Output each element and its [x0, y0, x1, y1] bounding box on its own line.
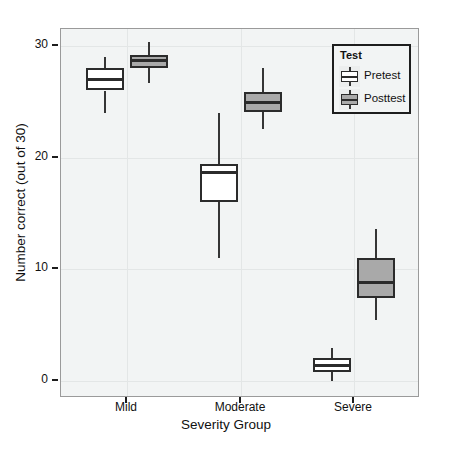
whisker-lower	[375, 298, 377, 319]
box-iqr	[357, 258, 395, 298]
legend-title: Test	[340, 49, 362, 61]
y-axis-tick	[52, 267, 58, 269]
y-axis-tick-label: 20	[20, 149, 48, 163]
legend-whisker-bottom	[349, 104, 351, 109]
chart-figure: Number correct (out of 30) 0102030 Test …	[0, 0, 452, 453]
median-line	[357, 281, 395, 284]
legend-median-pretest	[341, 76, 358, 78]
y-axis-tick-label: 10	[20, 260, 48, 274]
legend-median-posttest	[341, 99, 358, 101]
y-axis-tick	[52, 44, 58, 46]
x-axis-tick-label-moderate: Moderate	[215, 400, 266, 414]
legend-label-posttest: Posttest	[364, 92, 406, 104]
x-axis-label: Severity Group	[0, 417, 452, 432]
y-axis-label: Number correct (out of 30)	[13, 73, 28, 333]
legend-key-posttest-icon	[339, 89, 360, 110]
legend-item-posttest[interactable]: Posttest	[339, 89, 411, 110]
y-axis-tick	[52, 156, 58, 158]
y-axis-tick-label: 0	[20, 372, 48, 386]
legend: Test Pretest Posttest	[332, 44, 411, 114]
legend-label-pretest: Pretest	[364, 69, 400, 81]
legend-key-pretest-icon	[339, 66, 360, 87]
x-axis-tick-label-severe: Severe	[334, 400, 372, 414]
legend-whisker-bottom	[349, 81, 351, 86]
y-axis-tick	[52, 379, 58, 381]
plot-panel: Test Pretest Posttest	[60, 28, 419, 397]
y-axis-tick-label: 30	[20, 37, 48, 51]
legend-item-pretest[interactable]: Pretest	[339, 66, 411, 87]
x-axis-tick-label-mild: Mild	[115, 400, 137, 414]
whisker-upper	[375, 229, 377, 258]
